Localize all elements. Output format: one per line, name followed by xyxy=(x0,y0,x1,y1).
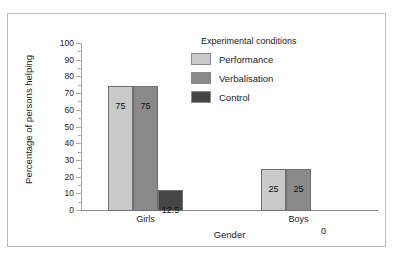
legend-label: Control xyxy=(219,92,250,103)
legend-entry: Verbalisation xyxy=(191,72,366,84)
legend-label: Performance xyxy=(219,54,273,65)
legend-swatch xyxy=(191,53,211,65)
plot-area: Percentage of persons helping 0102030405… xyxy=(8,14,387,248)
legend: Experimental conditions PerformanceVerba… xyxy=(191,36,366,110)
legend-title: Experimental conditions xyxy=(201,36,366,46)
cropped-text-above-figure: · · · xyxy=(0,0,393,11)
legend-entries: PerformanceVerbalisationControl xyxy=(191,53,366,103)
bar-group: 757512.5 xyxy=(108,43,183,211)
bar-value-label: 0 xyxy=(305,227,342,236)
legend-swatch xyxy=(191,72,211,84)
legend-label: Verbalisation xyxy=(219,73,273,84)
legend-swatch xyxy=(191,91,211,103)
bar-value-label: 75 xyxy=(127,102,164,111)
x-axis-group-label: Boys xyxy=(254,214,344,224)
chart-figure: · · · Percentage of persons helping 0102… xyxy=(0,0,393,255)
bar-value-label: 25 xyxy=(280,185,317,194)
figure-border-box: Percentage of persons helping 0102030405… xyxy=(7,13,386,247)
x-axis-group-label: Girls xyxy=(101,214,191,224)
legend-entry: Performance xyxy=(191,53,366,65)
legend-entry: Control xyxy=(191,91,366,103)
